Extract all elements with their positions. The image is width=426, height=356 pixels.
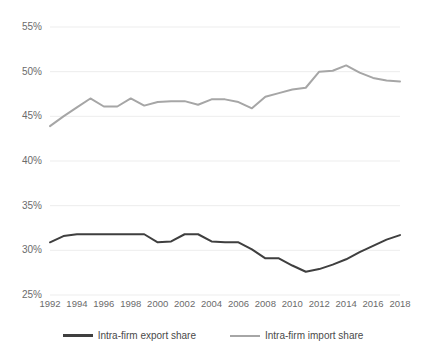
x-axis-tick-label: 1994 [62,299,92,309]
y-axis-tick-label: 55% [8,22,42,32]
y-axis-tick-label: 50% [8,67,42,77]
x-axis-tick-label: 2004 [197,299,227,309]
x-axis-tick-label: 2000 [143,299,173,309]
legend-label: Intra-firm import share [265,330,363,341]
x-axis-tick-label: 2012 [304,299,334,309]
y-axis-tick-label: 45% [8,111,42,121]
y-axis-tick-label: 30% [8,245,42,255]
chart-legend: Intra-firm export shareIntra-firm import… [0,330,426,341]
x-axis-tick-label: 2014 [331,299,361,309]
x-axis-tick-label: 2002 [170,299,200,309]
series-line [50,65,400,126]
legend-item[interactable]: Intra-firm export share [63,330,196,341]
series-lines [50,65,400,271]
x-axis-tick-label: 1998 [116,299,146,309]
x-axis-tick-label: 2018 [385,299,415,309]
legend-label: Intra-firm export share [98,330,196,341]
y-axis-tick-label: 40% [8,156,42,166]
x-axis-tick-label: 1992 [35,299,65,309]
x-axis-tick-label: 2008 [250,299,280,309]
y-axis-tick-label: 35% [8,201,42,211]
legend-line-swatch [230,335,260,337]
legend-line-swatch [63,334,93,337]
x-axis-tick-label: 2016 [358,299,388,309]
legend-item[interactable]: Intra-firm import share [230,330,363,341]
x-axis-tick-label: 1996 [89,299,119,309]
series-line [50,234,400,272]
x-axis-tick-label: 2006 [223,299,253,309]
x-axis-tick-label: 2010 [277,299,307,309]
line-chart: 25%30%35%40%45%50%55% 199219941996199820… [0,0,426,356]
